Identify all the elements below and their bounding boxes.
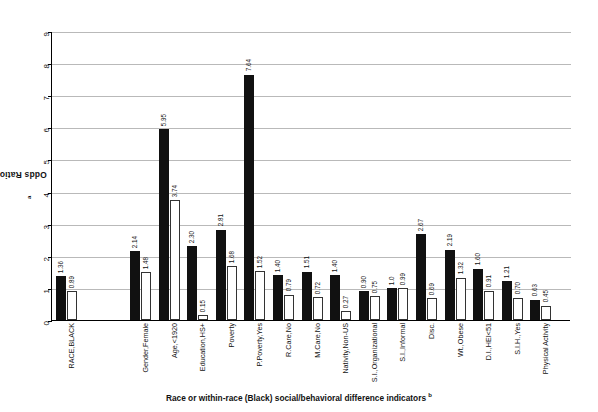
bar-value-label: 0.75: [372, 281, 378, 293]
y-axis-footnote-marker: a: [26, 195, 32, 199]
bar-value-label: 0.45: [543, 290, 549, 302]
bar-black: 0.90: [359, 291, 369, 320]
bar-group: 2.191.32: [445, 31, 467, 320]
bar-black: 5.95: [159, 129, 169, 320]
y-axis-tick-label: 1: [43, 289, 51, 293]
x-axis-category-label: R.Care,No: [285, 323, 292, 357]
bar-value-label: 1.40: [275, 260, 281, 272]
bar-black: 1.40: [273, 275, 283, 320]
x-axis-category-label: S.I.,Organizational: [371, 323, 378, 382]
bar-white: 0.27: [341, 311, 351, 320]
bar-white: 3.74: [170, 200, 180, 320]
x-axis-category-label: Physical Activity: [542, 323, 549, 374]
bar-value-label: 1.32: [457, 262, 463, 274]
y-axis-tick-label: 0: [43, 321, 51, 325]
bar-group: 1.360.89: [56, 31, 78, 320]
x-axis-category-label: Wt.,Obese: [457, 323, 464, 357]
bar-value-label: 0.15: [200, 300, 206, 312]
x-axis-footnote-marker: b: [428, 392, 432, 398]
bar-value-label: 1.52: [257, 256, 263, 268]
y-axis-tick-label: 2: [43, 257, 51, 261]
x-axis-category-label: Disc.: [428, 323, 435, 339]
bar-group: 0.630.45: [530, 31, 552, 320]
bar-white: 0.15: [198, 315, 208, 320]
y-axis-tick-label: 7: [43, 96, 51, 100]
x-axis-category-label: S.I.,Informal: [399, 323, 406, 362]
bar-value-label: 1.0: [389, 276, 395, 285]
bar-value-label: 0.70: [515, 282, 521, 294]
bar-white: 1.32: [456, 278, 466, 320]
bar-black: 1.51: [302, 272, 312, 320]
bar-group: 1.210.70: [502, 31, 524, 320]
bar-group: 5.953.74: [159, 31, 181, 320]
bar-value-label: 0.63: [532, 285, 538, 297]
y-axis-tick-label: 3: [43, 225, 51, 229]
bar-value-label: 2.19: [446, 234, 452, 246]
bar-black: 1.21: [502, 281, 512, 320]
bar-value-label: 0.72: [314, 282, 320, 294]
bar-black: 0.63: [530, 300, 540, 320]
bar-value-label: 1.40: [332, 260, 338, 272]
bar-black: 2.14: [130, 251, 140, 320]
bar-value-label: 0.99: [400, 273, 406, 285]
bar-black: 2.67: [416, 234, 426, 320]
bar-white: 1.52: [255, 271, 265, 320]
bar-group: 1.600.91: [473, 31, 495, 320]
bar-value-label: 1.21: [504, 266, 510, 278]
y-axis-tick-label: 9: [43, 32, 51, 36]
x-axis-category-label: D.I.,HEI<51: [485, 323, 492, 360]
bar-value-label: 2.81: [218, 215, 224, 227]
bar-black: 1.40: [330, 275, 340, 320]
bar-white: 0.79: [284, 295, 294, 320]
bar-white: 0.69: [427, 298, 437, 320]
bar-group: 1.00.99: [387, 31, 409, 320]
bar-value-label: 0.89: [69, 276, 75, 288]
y-axis-title: Odds Ratios a: [18, 120, 34, 230]
x-axis-category-label: S.I.H.,Yes: [514, 323, 521, 355]
bar-value-label: 5.95: [160, 114, 166, 126]
bar-black: 1.0: [387, 288, 397, 320]
bar-value-label: 1.48: [143, 257, 149, 269]
bar-value-label: 0.91: [486, 276, 492, 288]
bar-white: 0.99: [398, 288, 408, 320]
bar-group: 1.400.27: [330, 31, 352, 320]
bar-white: 0.89: [67, 291, 77, 320]
bar-black: 1.60: [473, 269, 483, 320]
bar-white: 0.72: [313, 297, 323, 320]
bar-series-container: 1.360.892.141.485.953.742.300.152.811.68…: [52, 31, 571, 320]
bar-value-label: 1.60: [475, 253, 481, 265]
bar-value-label: 0.90: [361, 276, 367, 288]
bar-group: 1.510.72: [302, 31, 324, 320]
x-axis-category-label: P.Poverty,Yes: [256, 323, 263, 366]
bar-value-label: 3.74: [171, 185, 177, 197]
bar-value-label: 0.79: [286, 279, 292, 291]
x-axis-category-label: M.Care,No: [314, 323, 321, 358]
bar-group: 1.400.79: [273, 31, 295, 320]
x-axis-category-label: Gender,Female: [142, 323, 149, 373]
x-axis-category-label: RACE,BLACK: [68, 323, 75, 369]
odds-ratio-bar-chart: Odds Ratios a 0123456789 1.360.892.141.4…: [0, 0, 598, 412]
bar-black: 2.81: [216, 230, 226, 320]
bar-white: 0.45: [541, 306, 551, 320]
y-axis-tick-label: 4: [43, 193, 51, 197]
bar-group: 2.300.15: [187, 31, 209, 320]
bar-black: 2.19: [445, 250, 455, 320]
bar-value-label: 7.64: [246, 59, 252, 71]
y-axis-tick-label: 6: [43, 128, 51, 132]
bar-value-label: 1.68: [229, 251, 235, 263]
bar-black: 2.30: [187, 246, 197, 320]
bar-group: 2.670.69: [416, 31, 438, 320]
bar-white: 1.48: [141, 272, 151, 320]
x-axis-category-label: Nativity,Non-US: [342, 323, 349, 374]
y-axis-tick-label: 8: [43, 64, 51, 68]
bar-value-label: 2.67: [418, 219, 424, 231]
y-axis-tick-label: 5: [43, 160, 51, 164]
bar-white: 0.91: [484, 291, 494, 320]
bar-value-label: 0.27: [343, 296, 349, 308]
bar-group: 7.641.52: [244, 31, 266, 320]
bar-white: 1.68: [227, 266, 237, 320]
bar-white: 0.75: [370, 296, 380, 320]
x-axis-category-label: Education,HS+: [199, 323, 206, 371]
bar-group: 2.811.68: [216, 31, 238, 320]
bar-value-label: 0.69: [429, 283, 435, 295]
